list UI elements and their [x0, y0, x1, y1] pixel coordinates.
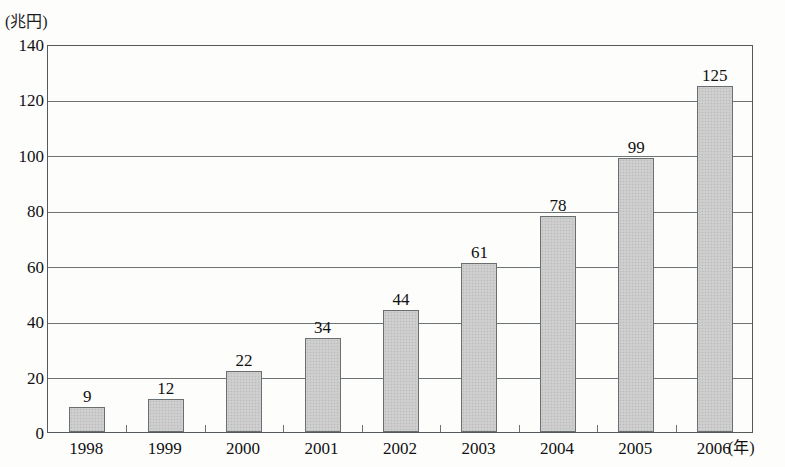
bar: [540, 216, 576, 432]
bar-value-label: 9: [57, 388, 117, 405]
bar-value-label: 125: [685, 67, 745, 84]
bar: [383, 310, 419, 432]
chart-figure: (兆円) 020406080100120140 9122234446178991…: [0, 0, 785, 467]
bar-value-label: 44: [371, 291, 431, 308]
y-axis-tick-label: 140: [19, 37, 45, 54]
bar-value-label: 34: [293, 319, 353, 336]
x-axis-tick-label: 2004: [517, 440, 597, 457]
bar: [697, 86, 733, 432]
x-axis-tick-label: 2000: [203, 440, 283, 457]
y-axis-tick-label: 20: [27, 370, 44, 387]
bar: [226, 371, 262, 432]
x-axis-tick-label: 1998: [46, 440, 126, 457]
bar: [148, 399, 184, 432]
bar: [69, 407, 105, 432]
bar: [305, 338, 341, 432]
x-axis-tick-label: 1999: [125, 440, 205, 457]
bar: [618, 158, 654, 432]
x-axis-unit-label: (年): [728, 440, 755, 456]
bar-series: 912223444617899125: [48, 46, 752, 432]
x-axis-tick-label: 2005: [595, 440, 675, 457]
bar-value-label: 99: [606, 139, 666, 156]
y-axis-tick-label: 120: [19, 92, 45, 109]
x-axis-tick-label: 2002: [360, 440, 440, 457]
x-axis-tick-label: 2003: [438, 440, 518, 457]
y-axis-tick-label: 100: [19, 148, 45, 165]
y-axis-tick-label: 80: [27, 203, 44, 220]
bar-value-label: 12: [136, 380, 196, 397]
bar-value-label: 78: [528, 197, 588, 214]
bar-value-label: 61: [449, 244, 509, 261]
y-axis-tick-label: 0: [36, 425, 45, 442]
y-axis-tick-label: 60: [27, 259, 44, 276]
y-axis-tick-label: 40: [27, 314, 44, 331]
y-axis-unit-label: (兆円): [5, 14, 48, 30]
bar: [461, 263, 497, 432]
plot-area: 912223444617899125: [47, 45, 753, 433]
x-axis-tick-label: 2001: [282, 440, 362, 457]
bar-value-label: 22: [214, 352, 274, 369]
